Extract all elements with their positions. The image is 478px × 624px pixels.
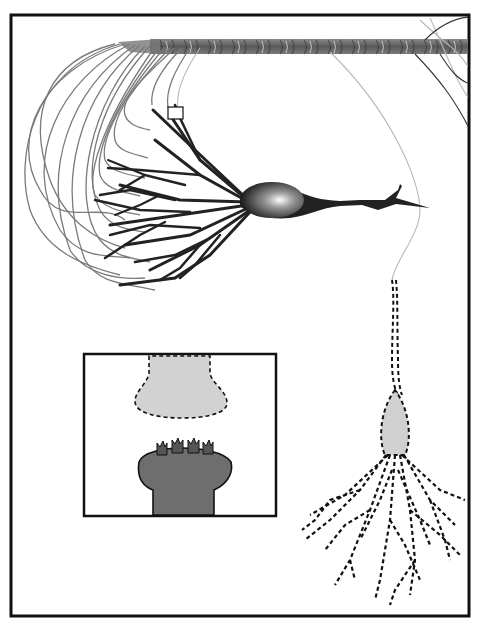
synapse-inset	[84, 354, 276, 516]
soma	[240, 182, 304, 218]
zoom-marker-box	[168, 107, 183, 119]
neuron-diagram	[0, 0, 478, 624]
